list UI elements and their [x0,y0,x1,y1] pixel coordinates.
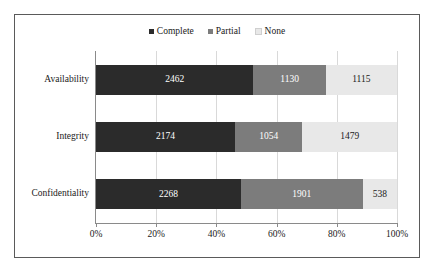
bar-segment-value: 2462 [165,75,184,85]
x-axis-tick [96,223,97,227]
bar-segment-value: 538 [373,190,387,200]
legend-item-none[interactable]: None [255,27,286,37]
x-axis-tick-label: 60% [268,229,285,239]
bar-segment-value: 1479 [340,132,359,142]
chart-figure: CompletePartialNone 0%20%40%60%80%100%Av… [14,14,420,258]
gridline [397,51,398,223]
legend-square-marker [149,29,154,34]
bar-segment-value: 1054 [259,132,278,142]
x-axis-tick-label: 40% [208,229,225,239]
x-axis-tick [156,223,157,227]
legend-item-label: Partial [216,27,241,37]
x-axis-tick-label: 80% [328,229,345,239]
bar-segment-value: 2268 [159,190,178,200]
bar-segment-none[interactable]: 1479 [302,122,397,152]
legend-square-marker [255,28,262,35]
y-axis-category-label: Integrity [56,132,89,142]
bar-segment-complete[interactable]: 2268 [96,179,241,209]
bar-row: Availability246211301115 [96,65,397,95]
x-axis-tick [216,223,217,227]
chart-legend: CompletePartialNone [15,27,419,37]
bar-row: Integrity217410541479 [96,122,397,152]
bar-segment-none[interactable]: 538 [363,179,397,209]
x-axis-tick [337,223,338,227]
x-axis-tick-label: 100% [386,229,408,239]
x-axis-tick [397,223,398,227]
bar-segment-value: 1901 [292,190,311,200]
plot-area: 0%20%40%60%80%100%Availability2462113011… [95,51,397,224]
bar-segment-partial[interactable]: 1901 [241,179,363,209]
bar-segment-partial[interactable]: 1130 [253,65,325,95]
bar-segment-value: 2174 [156,132,175,142]
bar-segment-value: 1130 [280,75,299,85]
x-axis-tick [277,223,278,227]
x-axis-tick-label: 20% [147,229,164,239]
x-axis-tick-label: 0% [90,229,103,239]
legend-item-partial[interactable]: Partial [208,27,241,37]
bar-segment-partial[interactable]: 1054 [235,122,302,152]
y-axis-category-label: Availability [44,75,89,85]
legend-item-label: Complete [157,27,194,37]
bar-segment-value: 1115 [352,75,370,85]
bar-segment-complete[interactable]: 2462 [96,65,253,95]
legend-square-marker [208,29,213,34]
bar-segment-complete[interactable]: 2174 [96,122,235,152]
legend-item-label: None [265,27,286,37]
bar-row: Confidentiality22681901538 [96,179,397,209]
legend-item-complete[interactable]: Complete [149,27,194,37]
y-axis-category-label: Confidentiality [31,189,89,199]
bar-segment-none[interactable]: 1115 [326,65,397,95]
